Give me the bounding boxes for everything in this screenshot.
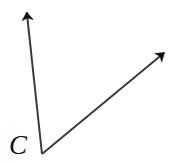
ray-upper-left [27,12,42,154]
vertex-label-c: C [9,132,27,159]
ray-group [27,12,164,154]
ray-upper-right [42,53,164,154]
angle-diagram-figure: C [0,0,175,165]
